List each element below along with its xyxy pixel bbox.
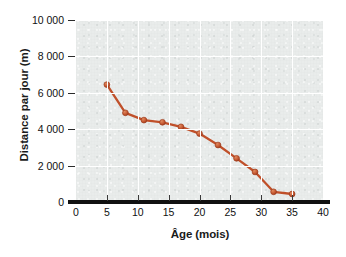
y-tick-label: 6 000 — [10, 87, 64, 99]
y-tick-mark — [68, 93, 75, 94]
x-tick-mark — [169, 195, 170, 201]
x-axis-tick-labels: 0510152025303540 — [0, 206, 346, 222]
data-point-marker — [123, 110, 129, 116]
data-point-marker — [160, 119, 166, 125]
x-tick-mark — [261, 195, 262, 201]
x-tick-mark — [230, 195, 231, 201]
x-axis-title: Âge (mois) — [76, 228, 324, 240]
gridline-horizontal — [76, 93, 323, 94]
y-tick-label: 8 000 — [10, 50, 64, 62]
chart-figure: Distance par jour (m) 02 0004 0006 0008 … — [0, 0, 346, 257]
gridline-vertical — [107, 20, 108, 202]
x-tick-label: 40 — [303, 206, 343, 218]
gridline-vertical — [138, 20, 139, 202]
data-point-marker — [271, 189, 277, 195]
gridline-vertical — [261, 20, 262, 202]
data-point-marker — [215, 142, 221, 148]
y-tick-label: 4 000 — [10, 123, 64, 135]
plot-area — [76, 20, 323, 202]
gridline-horizontal — [76, 166, 323, 167]
data-point-marker — [141, 117, 147, 123]
y-tick-mark — [68, 129, 75, 130]
gridline-vertical — [230, 20, 231, 202]
data-point-marker — [234, 155, 240, 161]
gridline-vertical — [169, 20, 170, 202]
data-point-marker — [252, 169, 258, 175]
gridline-vertical — [292, 20, 293, 202]
y-tick-label: 2 000 — [10, 160, 64, 172]
x-tick-mark — [107, 195, 108, 201]
y-tick-mark — [68, 166, 75, 167]
gridline-horizontal — [76, 129, 323, 130]
x-tick-mark — [200, 195, 201, 201]
gridline-horizontal — [76, 56, 323, 57]
x-tick-mark — [138, 195, 139, 201]
y-tick-mark — [68, 56, 75, 57]
x-tick-mark — [292, 195, 293, 201]
gridline-vertical — [200, 20, 201, 202]
y-tick-mark — [68, 20, 75, 21]
y-tick-label: 10 000 — [10, 14, 64, 26]
gridline-horizontal — [76, 20, 323, 21]
